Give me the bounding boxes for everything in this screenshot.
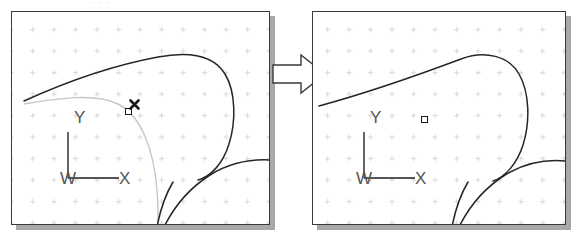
wcs-axis-icon: Y W X: [57, 110, 153, 192]
x-axis-label: X: [415, 169, 426, 188]
wcs-axis-icon: Y W X: [353, 110, 449, 192]
origin-label: W: [356, 169, 372, 188]
lower-left-tail: [450, 182, 468, 224]
clipped-caption-artifact: · · ·: [92, 0, 202, 4]
origin-label: W: [60, 169, 76, 188]
after-viewport[interactable]: Y W X: [312, 11, 566, 225]
grip-square[interactable]: [421, 116, 428, 123]
before-viewport[interactable]: Y W X: [11, 11, 270, 225]
x-axis-label: X: [119, 169, 130, 188]
y-axis-label: Y: [74, 110, 85, 127]
y-axis-label: Y: [370, 110, 381, 127]
snap-x-marker[interactable]: [128, 98, 141, 111]
figure-canvas: · · ·: [0, 0, 577, 247]
